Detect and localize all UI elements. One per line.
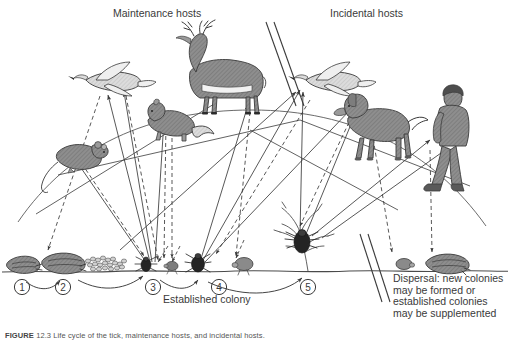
tick-stage-1-engorged-female: [7, 256, 43, 273]
arrow-dog-to-dispersal: [372, 132, 392, 252]
arrow-stage1-to-stage2: [26, 281, 60, 289]
arrow-human-to-dispersal: [430, 150, 432, 252]
arrow-bird-right-to-ground: [216, 100, 310, 254]
figure-caption-number: 12.3: [36, 331, 51, 340]
break-mark-lower: [360, 234, 390, 302]
arrow-deer-to-nymph: [236, 112, 250, 256]
dispersal-tick-small: [396, 259, 415, 270]
arrow-bird-left-to-stage1: [48, 96, 100, 250]
stage-number-1: 1: [19, 282, 25, 293]
label-maintenance-hosts: Maintenance hosts: [113, 8, 201, 20]
stage-number-2: 2: [60, 282, 66, 293]
arrow-ground-to-bird-right-long: [120, 92, 296, 250]
arrow-squirrel-to-ground: [164, 122, 166, 258]
figure-caption: FIGURE 12.3 Life cycle of the tick, main…: [5, 331, 265, 340]
bird-right-figure: [288, 62, 376, 96]
questing-tick-stage5: [285, 230, 319, 253]
tick-grey-nymph: [232, 258, 253, 276]
stage-number-5: 5: [305, 282, 311, 293]
stage-number-3: 3: [150, 282, 156, 293]
deer-figure: [176, 20, 266, 115]
mouse-figure: [41, 142, 108, 193]
arrow-adult-to-human-2: [322, 148, 448, 238]
label-established-colony: Established colony: [163, 294, 251, 306]
figure-caption-prefix: FIGURE: [5, 331, 34, 340]
tick-stage-3-larva: [135, 257, 157, 272]
figure-canvas: 1 2 3 4 5 Maintenance hosts Incidental h…: [0, 0, 510, 340]
arrow-stage3-to-stage4: [160, 280, 198, 288]
tick-small-nymph: [164, 261, 178, 274]
arrow-nymph-to-dog: [205, 108, 352, 262]
figure-caption-text: Life cycle of the tick, maintenance host…: [53, 331, 265, 340]
label-dispersal-note: Dispersal: new colonies may be formed or…: [393, 273, 505, 319]
dog-figure: [334, 94, 428, 161]
human-figure: [424, 85, 469, 191]
stage-number-4: 4: [216, 282, 222, 293]
arrow-larva-to-squirrel: [155, 120, 164, 262]
bird-left-figure: [68, 62, 156, 96]
egg-mass: [85, 256, 126, 271]
arrows-life-cycle-sequence: [26, 276, 302, 293]
arrow-stage2-to-stage3: [78, 276, 143, 288]
label-incidental-hosts: Incidental hosts: [330, 8, 403, 20]
tick-stage-4-nymph: [185, 253, 211, 272]
tick-stage-2-ovipositing-female: [42, 253, 86, 274]
arrow-nymph-to-bird-right: [202, 90, 300, 262]
